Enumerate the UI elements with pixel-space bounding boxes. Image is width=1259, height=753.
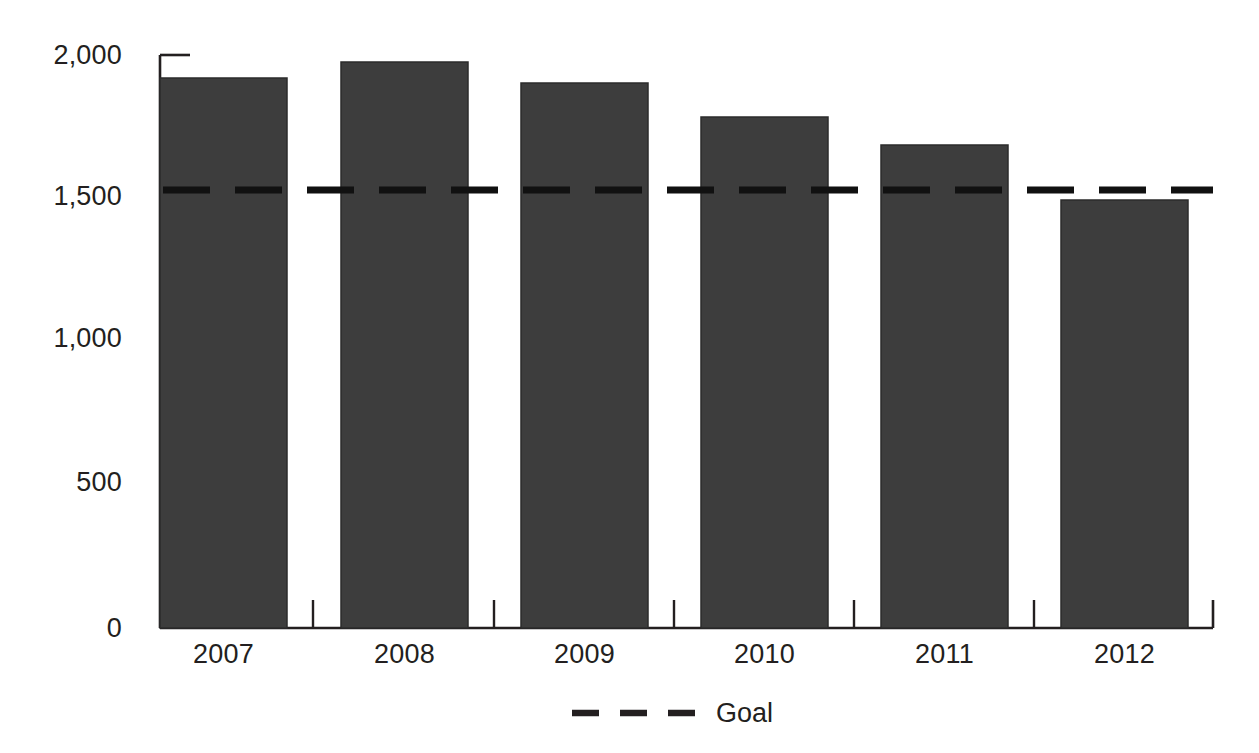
bar-2007	[160, 78, 287, 628]
bar-chart: 2,000 1,500 1,000 500 0 2007 2008 2009 2…	[0, 0, 1259, 753]
xtick-label-2010: 2010	[701, 641, 828, 668]
xtick-label-2008: 2008	[341, 641, 468, 668]
xtick-label-2007: 2007	[160, 641, 287, 668]
ytick-label-0: 0	[0, 615, 122, 642]
x-axis	[160, 600, 1213, 628]
bar-2012	[1061, 200, 1188, 628]
ytick-label-500: 500	[0, 469, 122, 496]
bar-2009	[521, 83, 648, 628]
xtick-label-2011: 2011	[881, 641, 1008, 668]
bar-series	[160, 62, 1188, 628]
legend-goal-label: Goal	[716, 700, 773, 727]
bar-2011	[881, 145, 1008, 628]
ytick-label-1500: 1,500	[0, 183, 122, 210]
xtick-label-2012: 2012	[1061, 641, 1188, 668]
ytick-label-1000: 1,000	[0, 325, 122, 352]
bar-2010	[701, 117, 828, 628]
bar-2008	[341, 62, 468, 628]
ytick-label-2000: 2,000	[0, 42, 122, 69]
xtick-label-2009: 2009	[521, 641, 648, 668]
